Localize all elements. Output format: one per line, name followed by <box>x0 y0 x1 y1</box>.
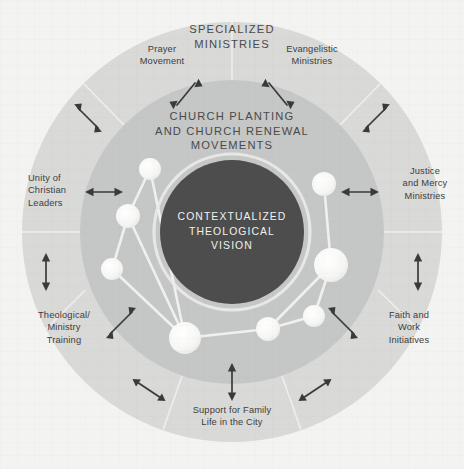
label-prayer-movement: Prayer Movement <box>126 43 198 68</box>
network-node <box>139 158 161 180</box>
middle-ring-title: CHURCH PLANTING AND CHURCH RENEWAL MOVEM… <box>141 109 323 153</box>
network-node <box>314 248 348 282</box>
network-node <box>312 172 336 196</box>
network-node <box>169 322 201 354</box>
label-faith-and-work-initiatives: Faith and Work Initiatives <box>374 309 444 346</box>
network-node <box>256 317 280 341</box>
label-unity-of-christian-leaders: Unity of Christian Leaders <box>28 172 94 209</box>
center-circle-title: CONTEXTUALIZED THEOLOGICAL VISION <box>157 210 307 254</box>
label-evangelistic-ministries: Evangelistic Ministries <box>272 43 352 68</box>
label-theological-ministry-training: Theological/ Ministry Training <box>22 309 106 346</box>
diagram-canvas: SPECIALIZED MINISTRIES CHURCH PLANTING A… <box>0 0 464 469</box>
network-node <box>101 258 123 280</box>
label-justice-and-mercy-ministries: Justice and Mercy Ministries <box>390 165 460 202</box>
network-node <box>116 204 140 228</box>
label-support-for-family-life: Support for Family Life in the City <box>162 404 302 429</box>
network-node <box>303 305 325 327</box>
